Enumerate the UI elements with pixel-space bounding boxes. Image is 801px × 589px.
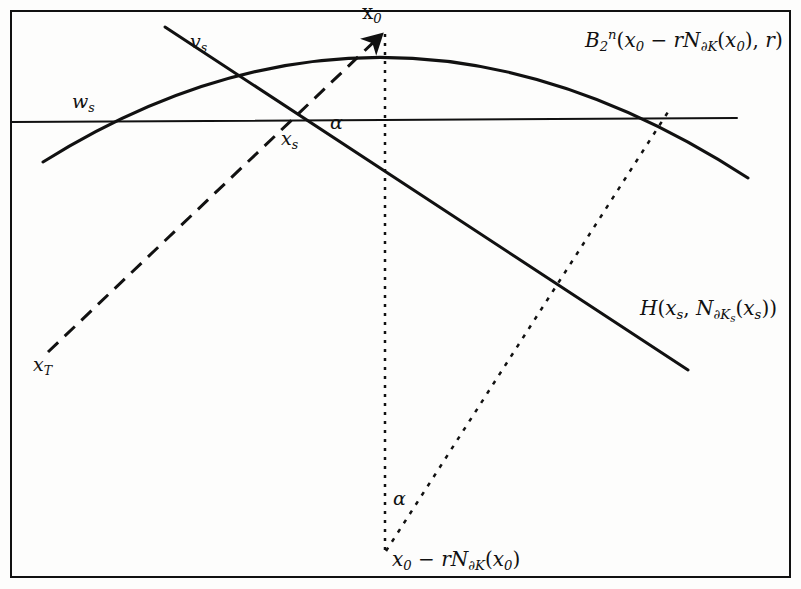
label-base-point: x0 − rN∂K(x0) <box>392 549 520 569</box>
label-xs: xs <box>281 129 298 148</box>
label-ball-set: B2n(x0 − rN∂K(x0), r) <box>585 30 783 50</box>
label-hyperplane: H(xs, N∂Ks(xs)) <box>640 298 777 319</box>
label-ws: ws <box>72 92 95 111</box>
label-alpha-lower: α <box>393 489 406 508</box>
dotted-ray-base-to-arc <box>386 112 668 551</box>
label-alpha-upper: α <box>330 113 343 132</box>
label-xT: xT <box>33 355 52 374</box>
hyperplane-line <box>165 27 688 370</box>
label-x0: x0 <box>362 2 382 22</box>
label-vs: vs <box>190 32 207 51</box>
figure-canvas: x0 vs ws xs α B2n(x0 − rN∂K(x0), r) H(xs… <box>0 0 801 589</box>
